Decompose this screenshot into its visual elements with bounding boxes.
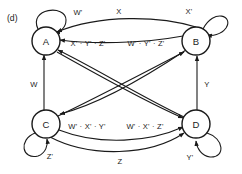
edge-label-right: Y xyxy=(204,80,209,89)
node-d-label: D xyxy=(193,119,200,130)
edge-label-a-self: W' xyxy=(73,8,82,17)
edge-label-mid-left-lower: W' · X' · Y' xyxy=(68,122,106,131)
figure-caption: (d) xyxy=(7,13,18,23)
node-b-label: B xyxy=(193,36,199,47)
edge-label-c-self: Z' xyxy=(47,152,54,161)
node-a-label: A xyxy=(43,36,50,47)
edge-label-d-self: Y' xyxy=(187,153,194,162)
edge-label-top: X xyxy=(116,7,121,16)
edge-c-to-d-bottom xyxy=(50,133,184,152)
node-c-label: C xyxy=(43,119,50,130)
edge-label-left: W xyxy=(30,80,38,89)
state-diagram: A B C D W' X X' X' · Y' · Z' W' · Y' · Z… xyxy=(0,0,242,174)
edge-a-to-b xyxy=(57,19,196,32)
edge-b-to-c xyxy=(60,50,186,114)
edge-c-to-b xyxy=(58,52,184,116)
figure-container: A B C D W' X X' X' · Y' · Z' W' · Y' · Z… xyxy=(0,0,242,174)
edge-label-bottom: Z xyxy=(118,157,123,166)
edge-label-b-self: X' xyxy=(186,7,193,16)
edge-label-mid-left-upper: X' · Y' · Z' xyxy=(71,39,106,48)
edge-label-mid-right-lower: W' · X' · Z' xyxy=(126,122,163,131)
edge-label-mid-right-upper: W' · Y' · Z' xyxy=(128,39,165,48)
